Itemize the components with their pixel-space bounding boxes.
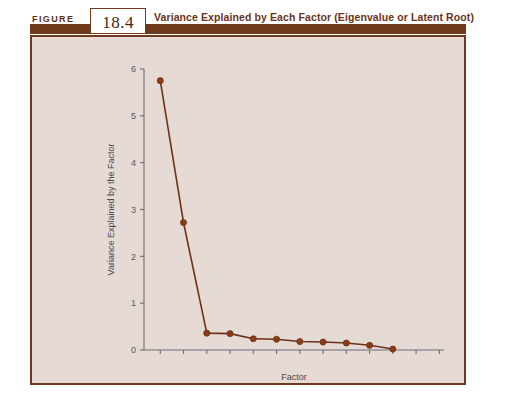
y-tick-label: 4 bbox=[131, 158, 136, 168]
figure-number-box: 18.4 bbox=[90, 8, 146, 34]
scree-plot: 0123456FactorVariance Explained by the F… bbox=[32, 37, 468, 387]
figure-header: FIGURE 18.4 Variance Explained by Each F… bbox=[30, 6, 466, 36]
data-point bbox=[157, 78, 163, 84]
data-line bbox=[160, 81, 393, 349]
figure-kicker-label: FIGURE bbox=[32, 14, 74, 24]
data-point bbox=[390, 346, 396, 352]
data-point bbox=[204, 330, 210, 336]
figure-page: FIGURE 18.4 Variance Explained by Each F… bbox=[0, 0, 523, 417]
figure-panel: 0123456FactorVariance Explained by the F… bbox=[30, 35, 466, 385]
y-tick-label: 5 bbox=[131, 111, 136, 121]
data-point bbox=[180, 220, 186, 226]
data-point bbox=[343, 340, 349, 346]
panel-background: 0123456FactorVariance Explained by the F… bbox=[32, 37, 464, 383]
data-point bbox=[250, 336, 256, 342]
scree-plot-svg: 0123456FactorVariance Explained by the F… bbox=[32, 37, 468, 382]
data-point bbox=[366, 342, 372, 348]
x-axis-title: Factor bbox=[281, 372, 307, 382]
data-point bbox=[227, 331, 233, 337]
y-tick-label: 3 bbox=[131, 205, 136, 215]
y-tick-label: 2 bbox=[131, 252, 136, 262]
data-point bbox=[297, 338, 303, 344]
y-tick-label: 0 bbox=[131, 345, 136, 355]
y-tick-label: 6 bbox=[131, 64, 136, 74]
figure-number: 18.4 bbox=[91, 13, 145, 33]
y-tick-label: 1 bbox=[131, 298, 136, 308]
y-axis-title: Variance Explained by the Factor bbox=[106, 144, 116, 276]
data-point bbox=[273, 336, 279, 342]
figure-title: Variance Explained by Each Factor (Eigen… bbox=[154, 11, 474, 23]
data-point bbox=[320, 339, 326, 345]
